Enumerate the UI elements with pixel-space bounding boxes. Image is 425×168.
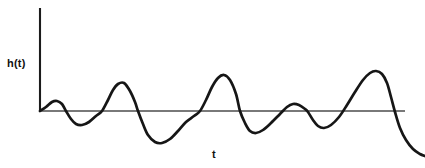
y-axis-label: h(t)	[7, 57, 26, 69]
impulse-response-figure: h(t) t	[0, 0, 425, 168]
x-axis-label: t	[212, 148, 216, 160]
plot-canvas	[0, 0, 425, 168]
impulse-response-curve	[40, 71, 425, 156]
